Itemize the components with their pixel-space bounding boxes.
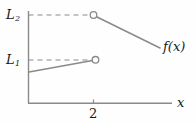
figure-container: L2 L1 f(x) x 2 (0, 0, 196, 124)
curve-left-branch (29, 61, 93, 73)
y-label-L1-subscript: 1 (15, 59, 20, 68)
curve-right-branch (96, 17, 160, 49)
function-graph-svg (0, 0, 196, 124)
y-label-L1-letter: L (6, 52, 15, 67)
y-label-L2-letter: L (6, 7, 15, 22)
x-tick-label-2: 2 (89, 107, 97, 120)
y-label-L2-subscript: 2 (15, 14, 20, 23)
function-label: f(x) (163, 40, 185, 53)
y-label-L2: L2 (6, 8, 20, 21)
x-axis-label: x (177, 96, 184, 109)
open-circle-upper (90, 12, 97, 19)
open-circle-lower (92, 57, 99, 64)
y-label-L1: L1 (6, 53, 20, 66)
